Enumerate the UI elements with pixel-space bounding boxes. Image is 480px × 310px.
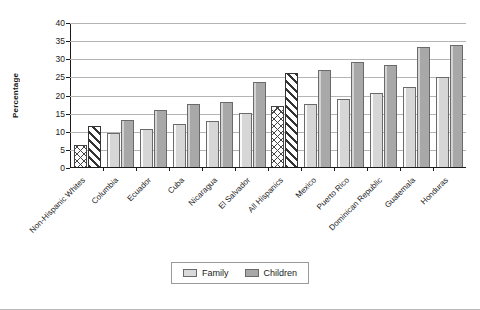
y-tick-mark	[66, 23, 70, 24]
bar-children	[384, 65, 397, 167]
y-tick-mark	[66, 41, 70, 42]
bar-children	[121, 120, 134, 167]
legend-label: Children	[263, 268, 297, 278]
bar-group	[203, 23, 236, 167]
y-tick-mark	[66, 114, 70, 115]
bar-children	[417, 47, 430, 167]
y-tick-mark	[66, 77, 70, 78]
bar-children	[285, 73, 298, 167]
bar-children	[154, 110, 167, 167]
y-tick-label: 15	[56, 109, 65, 119]
y-tick-label: 30	[56, 54, 65, 64]
bar-family	[271, 106, 284, 167]
bar-family	[337, 99, 350, 167]
chart-figure: Percentage 0510152025303540 Non-Hispanic…	[0, 0, 480, 310]
chart-legend: FamilyChildren	[171, 262, 309, 284]
bar-family	[370, 93, 383, 167]
bar-family	[140, 129, 153, 167]
legend-label: Family	[202, 268, 229, 278]
bar-group	[170, 23, 203, 167]
bar-group	[269, 23, 302, 167]
bar-groups	[71, 23, 466, 167]
bar-group	[236, 23, 269, 167]
y-tick-mark	[66, 168, 70, 169]
bar-group	[301, 23, 334, 167]
y-tick-mark	[66, 96, 70, 97]
bar-group	[137, 23, 170, 167]
y-tick-label: 35	[56, 36, 65, 46]
y-tick-label: 10	[56, 127, 65, 137]
bar-children	[220, 102, 233, 167]
bar-children	[450, 45, 463, 167]
bar-family	[173, 124, 186, 168]
y-tick-mark	[66, 132, 70, 133]
bar-children	[351, 62, 364, 167]
bar-group	[400, 23, 433, 167]
bar-children	[318, 70, 331, 167]
y-tick-label: 20	[56, 91, 65, 101]
bar-family	[436, 77, 449, 167]
x-axis-labels: Non-Hispanic WhitesColumbiaEcuadorCubaNi…	[70, 170, 466, 248]
legend-item: Family	[183, 268, 229, 278]
bar-children	[253, 82, 266, 167]
y-axis-title: Percentage	[7, 30, 23, 160]
bar-children	[187, 104, 200, 167]
bar-group	[433, 23, 466, 167]
legend-item: Children	[244, 268, 297, 278]
y-tick-mark	[66, 150, 70, 151]
bar-family	[74, 145, 87, 167]
y-tick-label: 25	[56, 72, 65, 82]
bar-family	[403, 87, 416, 167]
bar-family	[304, 104, 317, 167]
legend-swatch-family	[183, 269, 197, 277]
legend-swatch-children	[244, 269, 258, 277]
bar-family	[206, 121, 219, 167]
bar-group	[367, 23, 400, 167]
y-tick-label: 0	[60, 163, 65, 173]
bar-group	[104, 23, 137, 167]
plot-area: 0510152025303540	[70, 23, 466, 168]
bar-family	[239, 113, 252, 167]
y-tick-label: 40	[56, 18, 65, 28]
bar-group	[334, 23, 367, 167]
bar-family	[107, 133, 120, 167]
y-tick-label: 5	[60, 145, 65, 155]
bar-children	[88, 126, 101, 167]
bar-group	[71, 23, 104, 167]
y-tick-mark	[66, 59, 70, 60]
